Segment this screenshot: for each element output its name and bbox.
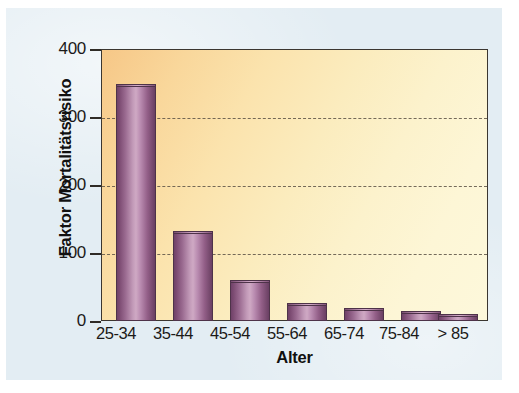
ytick-mark-300 xyxy=(90,117,101,119)
ytick-mark-0 xyxy=(90,321,101,323)
figure-root: 400 300 200 100 0 25-34 35-44 45-54 55-6… xyxy=(0,0,519,393)
x-axis-title: Alter xyxy=(101,348,488,367)
plot-area xyxy=(101,49,488,321)
y-axis-title: Faktor Mortalitätsrisiko xyxy=(56,43,75,293)
gridline-200 xyxy=(102,186,487,187)
gridline-100 xyxy=(102,254,487,255)
figure-canvas: 400 300 200 100 0 25-34 35-44 45-54 55-6… xyxy=(6,8,502,380)
ytick-mark-100 xyxy=(90,253,101,255)
ytick-label-0: 0 xyxy=(34,311,86,331)
xtick-label-gt-85: > 85 xyxy=(418,324,488,343)
ytick-mark-200 xyxy=(90,185,101,187)
ytick-mark-400 xyxy=(90,49,101,51)
gridline-300 xyxy=(102,118,487,119)
